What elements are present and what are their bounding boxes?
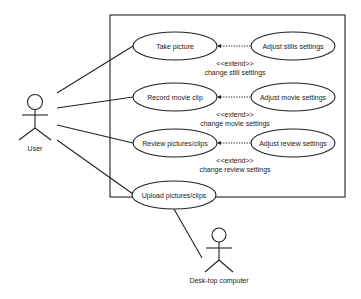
svg-text:Adjust review settings: Adjust review settings: [259, 140, 327, 148]
extend-condition: change movie settings: [200, 120, 270, 128]
extend-condition: change still settings: [204, 69, 266, 77]
association-user-review: [57, 125, 133, 143]
use-case-take-picture: Take picture: [133, 32, 217, 60]
svg-text:Upload pictures/clips: Upload pictures/clips: [142, 192, 207, 200]
arrowhead-icon: [217, 95, 221, 99]
svg-text:Adjust movie settings: Adjust movie settings: [260, 94, 327, 102]
svg-text:Record movie clip: Record movie clip: [147, 94, 203, 102]
arrowhead-icon: [217, 44, 221, 48]
association-desktop-upload: [174, 209, 202, 258]
use-case-adjust-review: Adjust review settings: [251, 129, 335, 157]
use-case-adjust-movie: Adjust movie settings: [251, 83, 335, 111]
extend-condition: change review settings: [199, 166, 271, 174]
use-case-adjust-stills: Adjust stills settings: [251, 32, 335, 60]
association-user-take-picture: [57, 46, 133, 93]
svg-text:Review pictures/clips: Review pictures/clips: [142, 140, 208, 148]
use-case-review: Review pictures/clips: [133, 129, 217, 157]
actor-user-label: User: [28, 145, 43, 152]
association-user-record-movie: [57, 97, 133, 108]
actor-desktop-label: Desk-top computer: [189, 277, 249, 285]
actor-desktop-icon: [205, 228, 233, 272]
extend-stereotype: <<extend>>: [216, 60, 253, 67]
association-user-upload: [57, 140, 133, 194]
actor-user-icon: [19, 95, 51, 141]
svg-text:Take picture: Take picture: [156, 43, 194, 51]
extend-stereotype: <<extend>>: [216, 157, 253, 164]
use-case-record-movie: Record movie clip: [133, 83, 217, 111]
use-case-diagram: Take picture Record movie clip Review pi…: [0, 0, 361, 299]
use-case-upload: Upload pictures/clips: [132, 181, 216, 209]
arrowhead-icon: [217, 141, 221, 145]
svg-text:Adjust stills settings: Adjust stills settings: [262, 43, 324, 51]
extend-stereotype: <<extend>>: [216, 111, 253, 118]
